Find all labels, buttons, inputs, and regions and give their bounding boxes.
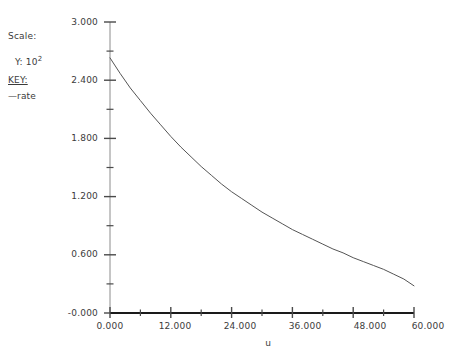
y-tick-label: -0.000 <box>52 308 98 318</box>
y-units-prefix: Y: 10 <box>15 57 38 67</box>
y-units-label: Y: 102 <box>15 56 80 68</box>
scale-label: Scale: <box>8 30 80 42</box>
y-tick-label: 3.000 <box>52 17 98 27</box>
x-tick-label: 60.000 <box>400 321 453 331</box>
chart-legend: Scale: Y: 102 KEY: —rate <box>8 30 80 103</box>
y-tick-label: 1.200 <box>52 191 98 201</box>
x-tick-label: 12.000 <box>147 321 203 331</box>
chart-canvas: Scale: Y: 102 KEY: —rate 3.000 2.400 1.8… <box>0 0 453 362</box>
legend-series-label: rate <box>17 91 36 101</box>
legend-line-swatch: — <box>8 91 17 101</box>
x-tick-label: 0.000 <box>82 321 138 331</box>
x-tick-label: 48.000 <box>342 321 398 331</box>
x-tick-label: 36.000 <box>277 321 333 331</box>
y-axis <box>104 22 116 313</box>
x-axis-title: u <box>248 338 288 348</box>
legend-item-rate: —rate <box>8 90 80 102</box>
y-tick-label: 0.600 <box>52 249 98 259</box>
x-axis <box>110 307 414 318</box>
y-tick-label: 1.800 <box>52 133 98 143</box>
x-tick-label: 24.000 <box>212 321 268 331</box>
data-series-group <box>110 58 414 286</box>
y-tick-label: 2.400 <box>52 75 98 85</box>
y-units-exponent: 2 <box>38 55 43 63</box>
